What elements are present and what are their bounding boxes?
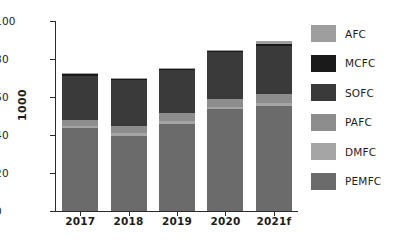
- bar-segment-dmfc[interactable]: [159, 121, 195, 123]
- bar-2019[interactable]: [159, 21, 195, 211]
- bar-segment-pafc[interactable]: [111, 126, 147, 134]
- bar-segment-pemfc[interactable]: [62, 128, 98, 211]
- chart-legend: AFCMCFCSOFCPAFCDMFCPEMFC: [311, 21, 397, 198]
- legend-label-pafc: PAFC: [345, 116, 372, 128]
- bar-segment-mcfc[interactable]: [62, 74, 98, 76]
- y-tick-mark: [50, 211, 56, 212]
- legend-label-afc: AFC: [345, 28, 366, 40]
- chart-root: 1000 020406080100 20172018201920202021f …: [0, 0, 397, 246]
- legend-item-afc[interactable]: AFC: [311, 21, 397, 46]
- bar-2018[interactable]: [111, 21, 147, 211]
- legend-item-mcfc[interactable]: MCFC: [311, 51, 397, 76]
- plot-area: [56, 21, 298, 211]
- bar-segment-dmfc[interactable]: [111, 133, 147, 135]
- bar-segment-sofc[interactable]: [159, 70, 195, 112]
- legend-swatch-dmfc: [311, 143, 336, 160]
- bar-2017[interactable]: [62, 21, 98, 211]
- legend-item-sofc[interactable]: SOFC: [311, 80, 397, 105]
- bar-segment-mcfc[interactable]: [159, 69, 195, 71]
- bar-segment-pemfc[interactable]: [111, 136, 147, 211]
- bar-segment-sofc[interactable]: [256, 46, 292, 94]
- legend-swatch-pemfc: [311, 173, 336, 190]
- bar-segment-pemfc[interactable]: [207, 109, 243, 211]
- legend-label-pemfc: PEMFC: [345, 175, 381, 187]
- legend-swatch-pafc: [311, 114, 336, 131]
- bar-segment-pemfc[interactable]: [159, 124, 195, 211]
- legend-swatch-afc: [311, 25, 336, 42]
- bar-segment-sofc[interactable]: [111, 80, 147, 126]
- bar-segment-dmfc[interactable]: [207, 107, 243, 109]
- legend-label-dmfc: DMFC: [345, 146, 376, 158]
- bar-segment-pafc[interactable]: [256, 94, 292, 104]
- bar-segment-afc[interactable]: [207, 50, 243, 51]
- legend-swatch-sofc: [311, 84, 336, 101]
- bar-segment-dmfc[interactable]: [256, 103, 292, 105]
- legend-swatch-mcfc: [311, 55, 336, 72]
- y-axis-title: 1000: [16, 89, 29, 121]
- bar-2021f[interactable]: [256, 21, 292, 211]
- legend-item-pafc[interactable]: PAFC: [311, 110, 397, 135]
- bar-segment-mcfc[interactable]: [111, 79, 147, 80]
- legend-label-mcfc: MCFC: [345, 57, 376, 69]
- bar-segment-mcfc[interactable]: [207, 51, 243, 52]
- bar-segment-sofc[interactable]: [62, 76, 98, 121]
- bar-segment-sofc[interactable]: [207, 52, 243, 100]
- bar-segment-afc[interactable]: [256, 41, 292, 44]
- bar-segment-afc[interactable]: [111, 78, 147, 79]
- bar-segment-dmfc[interactable]: [62, 126, 98, 128]
- bar-segment-afc[interactable]: [159, 68, 195, 69]
- legend-item-pemfc[interactable]: PEMFC: [311, 169, 397, 194]
- bar-segment-mcfc[interactable]: [256, 44, 292, 46]
- legend-label-sofc: SOFC: [345, 87, 374, 99]
- bar-segment-pafc[interactable]: [159, 113, 195, 122]
- bar-segment-pafc[interactable]: [207, 99, 243, 107]
- x-tick-label-2021f: 2021f: [244, 215, 304, 227]
- bar-segment-pafc[interactable]: [62, 120, 98, 126]
- bar-segment-afc[interactable]: [62, 73, 98, 74]
- bar-segment-pemfc[interactable]: [256, 106, 292, 211]
- legend-item-dmfc[interactable]: DMFC: [311, 139, 397, 164]
- bar-2020[interactable]: [207, 21, 243, 211]
